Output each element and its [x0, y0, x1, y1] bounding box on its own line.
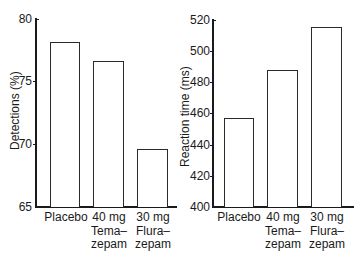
y-tick-80: 80	[2, 13, 32, 25]
y-axis	[35, 18, 37, 208]
x-label-flurazepam: 30 mg Flura– zepam	[305, 211, 349, 252]
y-tick-420: 420	[180, 170, 210, 182]
bar-placebo	[224, 118, 254, 207]
y-tick-65: 65	[2, 201, 32, 213]
y-tick-400: 400	[180, 201, 210, 213]
x-label-placebo: Placebo	[44, 211, 88, 225]
y-tick-460: 460	[180, 107, 210, 119]
y-tick-500: 500	[180, 45, 210, 57]
bar-temazepam	[93, 61, 124, 207]
y-tick-75: 75	[2, 75, 32, 87]
y-tick-440: 440	[180, 139, 210, 151]
detections-chart: Detections (%) 80 75 70 65 Placebo 40 mg…	[0, 0, 182, 257]
reaction-time-chart: Reaction time (ms) 520 500 480 460 440 4…	[182, 0, 364, 257]
bar-temazepam	[267, 70, 298, 207]
x-label-flurazepam: 30 mg Flura– zepam	[131, 211, 175, 252]
y-tick-70: 70	[2, 138, 32, 150]
y-tick-480: 480	[180, 76, 210, 88]
x-label-temazepam: 40 mg Tema– zepam	[87, 211, 131, 252]
bar-flurazepam	[137, 149, 168, 207]
bar-flurazepam	[311, 27, 342, 207]
bar-placebo	[50, 42, 80, 207]
y-tick-520: 520	[180, 14, 210, 26]
y-axis	[212, 19, 214, 208]
x-label-placebo: Placebo	[217, 211, 261, 225]
x-label-temazepam: 40 mg Tema– zepam	[261, 211, 305, 252]
